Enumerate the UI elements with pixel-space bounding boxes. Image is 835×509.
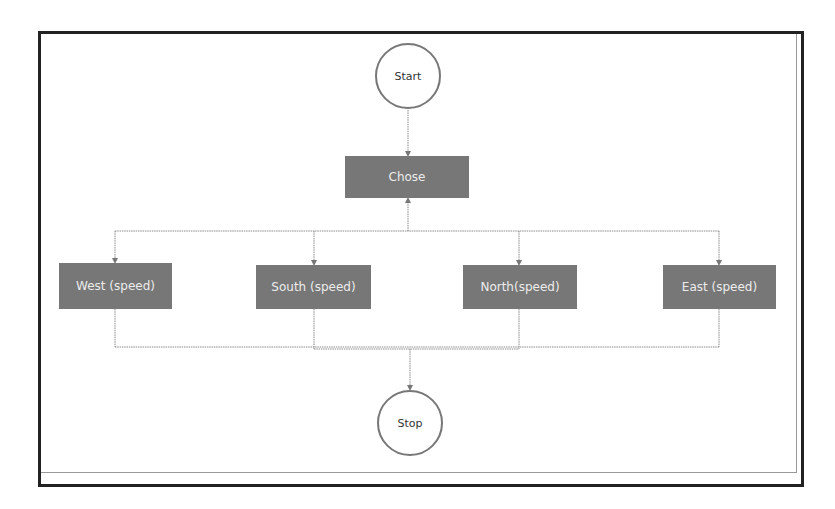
stop-node: Stop — [377, 390, 443, 456]
east-node: East (speed) — [663, 265, 776, 309]
north-label: North(speed) — [480, 280, 559, 294]
south-node: South (speed) — [256, 265, 371, 309]
chose-node: Chose — [345, 156, 469, 198]
west-label: West (speed) — [76, 279, 155, 293]
stop-label: Stop — [397, 417, 422, 430]
chose-label: Chose — [389, 170, 426, 184]
start-label: Start — [395, 70, 422, 83]
east-label: East (speed) — [682, 280, 757, 294]
start-node: Start — [375, 43, 441, 109]
north-node: North(speed) — [463, 265, 577, 309]
south-label: South (speed) — [271, 280, 355, 294]
west-node: West (speed) — [59, 263, 172, 309]
